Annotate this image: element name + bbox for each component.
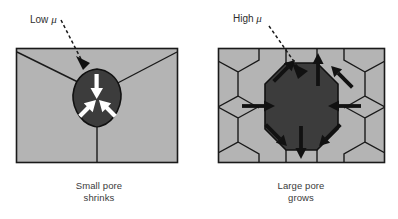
caption-right: Large pore grows [239,180,363,203]
mu-symbol-left: μ [51,13,57,25]
panel-right [218,26,385,163]
left-microstructure [16,48,178,163]
label-low-mu: Low μ [30,13,57,25]
caption-left: Small pore shrinks [37,180,161,203]
mu-symbol-right: μ [256,12,262,24]
label-low-mu-text: Low [30,14,51,25]
label-high-mu-text: High [233,13,256,24]
right-microstructure [218,48,385,163]
panel-left [16,20,178,163]
label-high-mu: High μ [233,12,262,24]
